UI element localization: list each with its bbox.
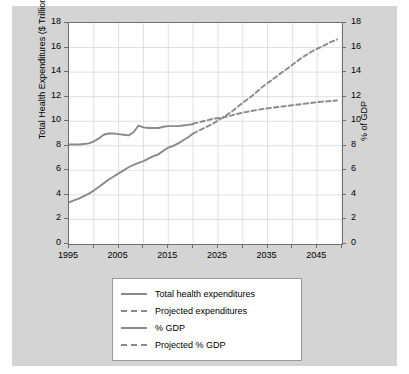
series-line-gdp — [69, 124, 193, 144]
x-axis-tick-label: 2025 — [197, 250, 237, 260]
x-axis-tick-label: 2045 — [296, 250, 336, 260]
y-axis-left-tick-label: 2 — [35, 212, 61, 222]
y-axis-left-tick-label: 10 — [35, 114, 61, 124]
legend-item[interactable]: Projected % GDP — [121, 336, 293, 353]
x-axis-tick-label: 2005 — [98, 250, 138, 260]
y-axis-left-tick-label: 16 — [35, 41, 61, 51]
series-line-projected-gdp — [193, 100, 337, 123]
x-axis-tick-label: 2015 — [147, 250, 187, 260]
y-axis-left-tick-label: 4 — [35, 188, 61, 198]
legend-swatch-solid-line-icon — [121, 323, 147, 333]
y-axis-right-tick-label: 18 — [351, 16, 377, 26]
y-axis-left-tick-label: 14 — [35, 65, 61, 75]
legend-item[interactable]: % GDP — [121, 319, 293, 336]
y-axis-right-tick-label: 4 — [351, 188, 377, 198]
y-axis-right-tick-label: 6 — [351, 163, 377, 173]
y-axis-right-tick-label: 14 — [351, 65, 377, 75]
chart-legend: Total health expendituresProjected expen… — [112, 278, 302, 361]
y-axis-left-tick-label: 8 — [35, 139, 61, 149]
y-axis-right-tick-label: 2 — [351, 212, 377, 222]
y-axis-right-tick-label: 10 — [351, 114, 377, 124]
plot-area — [68, 22, 343, 245]
legend-item-label: Projected expenditures — [155, 306, 247, 316]
y-axis-left-tick-label: 0 — [35, 237, 61, 247]
legend-item-label: Total health expenditures — [155, 289, 255, 299]
legend-swatch-dashed-line-icon — [121, 306, 147, 316]
legend-swatch-solid-line-icon — [121, 289, 147, 299]
chart-svg — [69, 23, 342, 244]
legend-item-label: Projected % GDP — [155, 340, 226, 350]
figure-canvas: Total Health Expenditures ($ Trillion) %… — [12, 6, 397, 366]
y-axis-right-tick-label: 8 — [351, 139, 377, 149]
y-axis-left-tick-label: 12 — [35, 90, 61, 100]
x-axis-tick-label: 1995 — [48, 250, 88, 260]
legend-item-label: % GDP — [155, 323, 185, 333]
legend-item[interactable]: Projected expenditures — [121, 302, 293, 319]
y-axis-right-tick-label: 16 — [351, 41, 377, 51]
y-axis-left-tick-label: 18 — [35, 16, 61, 26]
y-axis-right-tick-label: 12 — [351, 90, 377, 100]
chart-screenshot: Total Health Expenditures ($ Trillion) %… — [0, 0, 409, 374]
y-axis-left-tick-label: 6 — [35, 163, 61, 173]
legend-swatch-dashed-line-icon — [121, 340, 147, 350]
y-axis-right-tick-label: 0 — [351, 237, 377, 247]
x-axis-tick-label: 2035 — [247, 250, 287, 260]
legend-item[interactable]: Total health expenditures — [121, 285, 293, 302]
